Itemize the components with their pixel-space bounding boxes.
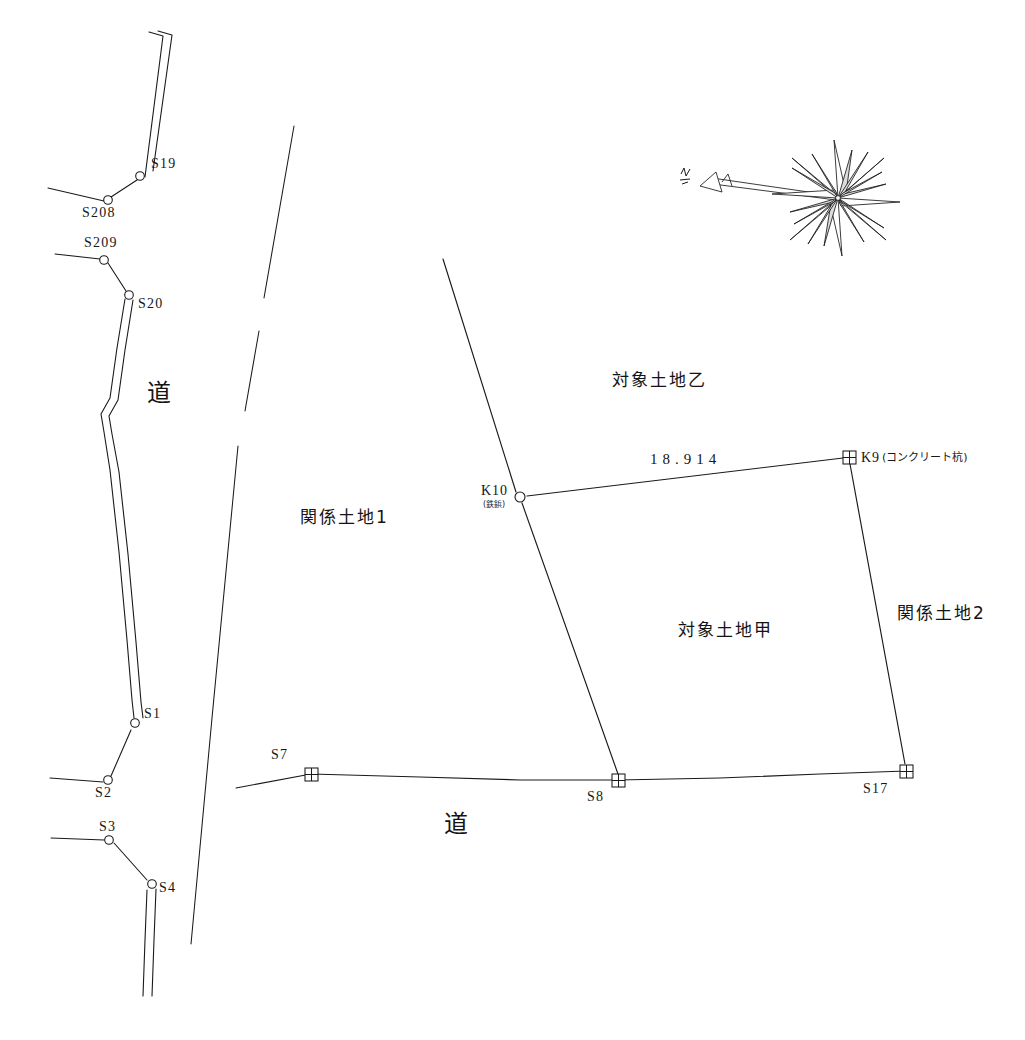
point-label-s20: S20 (138, 297, 163, 311)
compass-rose (680, 140, 900, 256)
road-spur-s3-west (51, 838, 104, 840)
point-label-s19: S19 (151, 157, 176, 171)
road-bottom-path (236, 771, 906, 788)
mid-boundary-seg-2 (245, 331, 259, 411)
point-sublabel-k10: (鉄鋲) (483, 501, 505, 509)
road-network-left (48, 31, 172, 996)
marker-k9 (843, 451, 856, 464)
parcel-label-kankei-2: 関係土地2 (897, 605, 986, 622)
road-spur-s2-west (50, 778, 103, 782)
road-edge-lower-west (143, 890, 147, 996)
point-label-s8: S8 (587, 790, 604, 804)
marker-s19 (136, 172, 145, 181)
dimension-label-k10-k9: 18.914 (650, 452, 721, 467)
boundary-k10-to-s8 (522, 503, 618, 774)
point-label-s7: S7 (271, 748, 288, 762)
point-label-s2: S2 (95, 786, 112, 800)
parcel-label-kankei-1: 関係土地1 (300, 509, 389, 526)
marker-s17 (900, 765, 913, 778)
boundary-point-markers (305, 451, 913, 787)
point-label-s17: S17 (863, 782, 888, 796)
road-spur-s209-s20 (108, 263, 126, 291)
road-spur-s208-west (48, 188, 104, 201)
road-label-left: 道 (147, 381, 171, 405)
road-bottom-line (236, 771, 906, 788)
marker-s8 (612, 774, 625, 787)
road-spur-s1-s2 (111, 730, 131, 776)
point-label-s3: S3 (99, 820, 116, 834)
road-edge-upper-east (153, 31, 172, 171)
marker-s1 (131, 719, 140, 728)
point-label-k10: K10 (481, 484, 508, 498)
mid-boundary-seg-3 (191, 446, 238, 944)
parcel-label-taisho-otsu: 対象土地乙 (612, 372, 707, 389)
marker-s7 (305, 768, 318, 781)
point-label-k9: K9 (861, 451, 880, 465)
compass-hub (836, 196, 841, 201)
marker-k10 (515, 492, 525, 502)
marker-s20 (125, 291, 134, 300)
road-edge-lower-east (152, 889, 156, 996)
parcel-label-taisho-kou: 対象土地甲 (678, 622, 773, 639)
compass-north-glyph (680, 168, 690, 184)
point-label-s4: S4 (159, 881, 176, 895)
road-spur-s3-s4 (114, 843, 147, 880)
road-edge-mid-west (101, 299, 134, 718)
point-paren-k9: (コンクリート杭) (882, 452, 968, 463)
boundary-top-to-k10 (443, 259, 516, 492)
point-label-s209: S209 (84, 236, 118, 250)
road-point-markers (100, 172, 157, 889)
parcel-boundaries (443, 259, 905, 774)
road-spur-s19-s208 (111, 180, 137, 197)
cadastral-survey-map: S19 S208 S209 S20 S1 S2 S3 S4 K10 (鉄鋲) K… (0, 0, 1025, 1040)
road-spur-s209-west (55, 254, 100, 259)
road-label-bottom: 道 (444, 812, 468, 836)
marker-s3 (105, 836, 114, 845)
marker-s2 (104, 776, 113, 785)
mid-boundary-line (191, 126, 294, 944)
point-label-s1: S1 (144, 707, 161, 721)
marker-s209 (100, 256, 109, 265)
point-label-s208: S208 (82, 206, 116, 220)
marker-s208 (104, 196, 113, 205)
marker-s4 (148, 880, 157, 889)
mid-boundary-seg-1 (264, 126, 294, 298)
